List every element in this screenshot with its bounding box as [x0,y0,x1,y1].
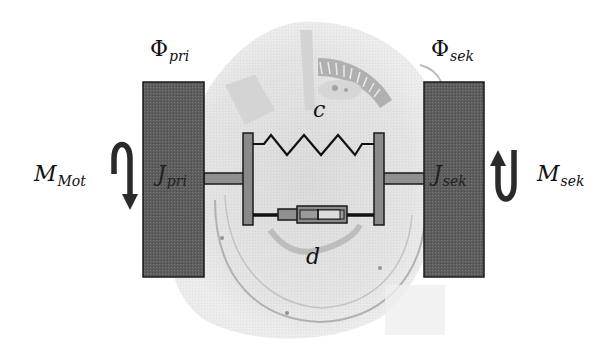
damper-label: d [306,244,320,269]
m-mot-label: MMot [34,161,86,186]
phi-symbol: Φ [150,36,168,61]
spring-c-text: c [313,97,325,122]
phi-pri-label: Φpri [150,36,189,61]
phi-sek-label: Φsek [431,36,474,61]
primary-shaft [204,173,244,184]
j-pri-subscript: pri [167,173,187,189]
left-coupling-plate [243,133,253,225]
phi-pri-subscript: pri [169,48,189,64]
j-sek-subscript: sek [443,173,467,189]
phi-symbol: Φ [431,36,449,61]
j-sek-label: Jsek [433,161,467,186]
m-symbol: M [537,161,560,186]
m-mot-subscript: Mot [58,173,86,189]
m-sek-label: Msek [537,161,584,186]
motor-torque-arrow-icon [114,145,138,211]
diagram-canvas: Φpri Φsek Jpri Jsek MMot Msek c d [0,0,614,353]
secondary-shaft [383,173,425,184]
diagram-svg [0,0,614,353]
right-coupling-plate [374,133,384,225]
phi-sek-subscript: sek [450,48,474,64]
m-symbol: M [34,161,57,186]
j-symbol: J [433,161,442,186]
j-symbol: J [157,161,166,186]
damper-d-text: d [306,244,320,269]
spring-label: c [313,97,325,122]
secondary-torque-arrow-icon [490,150,514,199]
m-sek-subscript: sek [561,173,585,189]
j-pri-label: Jpri [157,161,187,186]
